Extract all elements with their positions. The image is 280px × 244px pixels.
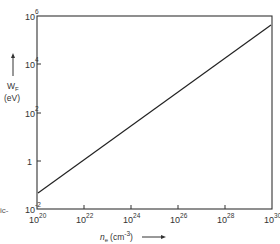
svg-text:1030: 1030 [264,212,280,225]
x-tick-labels: 1020 1022 1024 1026 1028 1030 [29,212,280,225]
x-axis-ticks [84,205,225,209]
svg-text:1026: 1026 [170,212,188,225]
svg-text:(eV): (eV) [4,93,20,103]
arrowhead-icon [161,235,166,239]
arrowhead-icon [11,53,15,58]
svg-text:1: 1 [27,157,32,167]
svg-text:1028: 1028 [217,212,235,225]
svg-text:1022: 1022 [76,212,94,225]
svg-text:ne(cm-3): ne(cm-3) [100,230,133,243]
fermi-energy-line [38,25,271,193]
y-axis-ticks [37,64,41,161]
svg-text:WF: WF [7,81,19,92]
x-axis-label: ne(cm-3) [100,230,166,243]
margin-text-fragment: ic- [0,206,9,215]
plot-frame [37,16,272,209]
y-axis-label: WF (eV) [4,53,20,103]
y-tick-labels: 106 104 102 1 10-2 [25,8,41,215]
svg-text:1024: 1024 [123,212,141,225]
chart: 1020 1022 1024 1026 1028 1030 106 104 10… [0,0,280,244]
